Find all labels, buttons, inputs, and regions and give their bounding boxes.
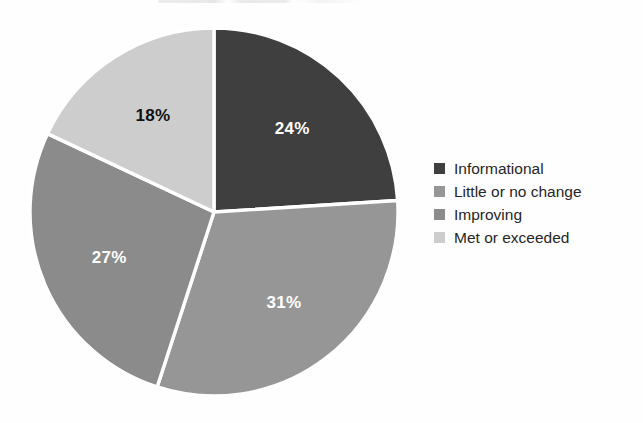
pie-slice-value-label: 24%	[275, 119, 310, 138]
pie-slices	[30, 28, 398, 396]
legend-swatch-icon	[434, 163, 445, 174]
legend-item-label: Improving	[454, 207, 522, 223]
legend-swatch-icon	[434, 186, 445, 197]
legend-item-met-or-exceeded[interactable]: Met or exceeded	[434, 226, 634, 249]
legend-swatch-icon	[434, 232, 445, 243]
pie-chart: 24%31%27%18%	[30, 28, 398, 396]
legend-item-label: Met or exceeded	[454, 230, 569, 246]
legend-swatch-icon	[434, 209, 445, 220]
legend-item-little-or-no-change[interactable]: Little or no change	[434, 180, 634, 203]
legend-item-label: Little or no change	[454, 184, 582, 200]
legend: Informational Little or no change Improv…	[434, 157, 634, 249]
pie-slice-value-label: 18%	[135, 106, 170, 125]
legend-item-informational[interactable]: Informational	[434, 157, 634, 180]
pie-chart-figure: 24%31%27%18% Informational Little or no …	[0, 0, 643, 423]
legend-item-label: Informational	[454, 161, 544, 177]
cropped-title-sliver	[158, 0, 363, 3]
pie-slice-value-label: 31%	[266, 293, 301, 312]
legend-item-improving[interactable]: Improving	[434, 203, 634, 226]
pie-svg: 24%31%27%18%	[30, 28, 398, 396]
pie-slice-value-label: 27%	[92, 248, 127, 267]
